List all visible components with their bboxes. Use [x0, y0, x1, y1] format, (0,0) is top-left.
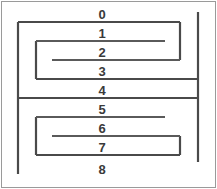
- serpentine-diagram: 0 1 2 3 4 5 6 7 8: [0, 0, 217, 189]
- level-label-4: 4: [98, 83, 106, 98]
- page-frame: [2, 2, 216, 188]
- level-label-0: 0: [98, 7, 105, 22]
- figure-container: 0 1 2 3 4 5 6 7 8: [0, 0, 217, 189]
- level-label-5: 5: [98, 102, 105, 117]
- level-label-2: 2: [98, 45, 105, 60]
- level-label-7: 7: [98, 140, 105, 155]
- level-label-8: 8: [98, 162, 105, 177]
- level-label-6: 6: [98, 121, 105, 136]
- level-label-1: 1: [98, 26, 105, 41]
- level-label-3: 3: [98, 64, 105, 79]
